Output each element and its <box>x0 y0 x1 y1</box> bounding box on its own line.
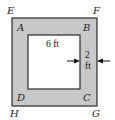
vertex-label-f: F <box>92 5 101 16</box>
border-width-value: 2 <box>85 50 90 60</box>
vertex-label-b: B <box>82 22 90 33</box>
arrow-left-icon <box>97 59 110 64</box>
border-width-unit: ft <box>85 61 91 71</box>
vertex-label-d: D <box>16 92 25 103</box>
vertex-label-e: E <box>6 5 15 16</box>
vertex-label-g: G <box>92 108 100 119</box>
square-border-diagram: E F G H A B C D 6 ft 2 ft <box>0 0 115 120</box>
vertex-label-c: C <box>83 92 91 103</box>
vertex-label-a: A <box>16 22 24 33</box>
inner-side-measurement: 6 ft <box>46 39 59 49</box>
vertex-label-h: H <box>9 108 19 119</box>
